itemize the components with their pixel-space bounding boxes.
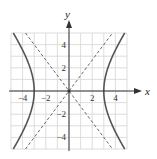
origin-dot — [67, 89, 70, 92]
x-axis-label: x — [144, 85, 150, 97]
y-tick-label: −4 — [56, 132, 66, 142]
axes — [9, 20, 142, 151]
x-tick-label: 4 — [113, 93, 118, 103]
y-axis-arrow-icon — [66, 20, 72, 28]
hyperbola-graph: −4−22442−2−4 x y — [0, 0, 157, 159]
y-tick-label: 2 — [62, 63, 67, 73]
x-tick-label: 2 — [90, 93, 95, 103]
x-tick-label: −4 — [18, 93, 28, 103]
x-axis-arrow-icon — [134, 88, 142, 94]
y-tick-label: 4 — [62, 40, 67, 50]
y-axis-label: y — [64, 8, 70, 20]
y-tick-label: −2 — [56, 109, 66, 119]
x-tick-label: −2 — [41, 93, 51, 103]
